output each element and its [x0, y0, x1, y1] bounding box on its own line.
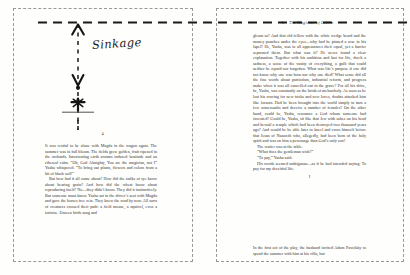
section-break: I [253, 172, 366, 181]
folio-verso: 4 [0, 131, 205, 136]
paragraph: gleam so? And that old fellow with the w… [253, 33, 366, 144]
paragraph: But how had it all come about? How did t… [45, 176, 157, 215]
running-head: 5The Magician of Lublin [205, 20, 410, 25]
recto-textblock-after-break: In the first act of the play, the husban… [253, 245, 366, 256]
recto-textblock: gleam so? And that old fellow with the w… [253, 33, 366, 181]
screenshot-root: 4 It was restful to be alone with Magda … [0, 0, 410, 275]
folio-recto: 5 [282, 20, 284, 25]
paragraph: His words seemed ambiguous—as if he had … [253, 161, 366, 172]
verso-textblock: It was restful to be alone with Magda in… [45, 143, 157, 215]
paragraph: It was restful to be alone with Magda in… [45, 143, 157, 176]
running-head-title: The Magician of Lublin [289, 20, 333, 25]
verso-page: 4 It was restful to be alone with Magda … [0, 0, 205, 275]
paragraph: In the first act of the play, the husban… [253, 245, 366, 256]
